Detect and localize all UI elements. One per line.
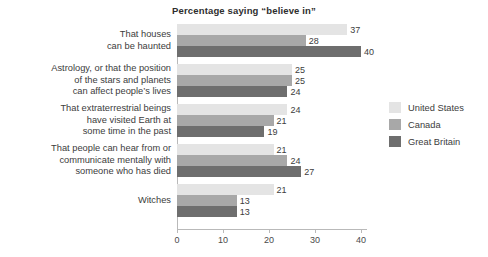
bar-value-label: 13 (240, 207, 250, 217)
bar[interactable] (177, 64, 292, 75)
bar-value-label: 24 (290, 105, 300, 115)
x-tick-label: 10 (218, 235, 228, 245)
bar-value-label: 24 (290, 87, 300, 97)
x-axis-line (177, 229, 367, 230)
bar[interactable] (177, 46, 361, 57)
legend-swatch-icon (389, 136, 401, 147)
bar-row: 37 (177, 24, 361, 35)
category-label: Witches (0, 195, 177, 206)
bar-value-label: 25 (295, 65, 305, 75)
bar-value-label: 13 (240, 196, 250, 206)
x-tick-mark (223, 229, 224, 233)
bar-row: 21 (177, 184, 361, 195)
category-label: That extraterrestrial beings have visite… (0, 103, 177, 137)
legend-item-canada[interactable]: Canada (389, 116, 464, 133)
bar[interactable] (177, 195, 237, 206)
x-tick-mark (361, 229, 362, 233)
bar[interactable] (177, 115, 274, 126)
bar[interactable] (177, 24, 347, 35)
legend-swatch-icon (389, 102, 401, 113)
bar[interactable] (177, 184, 274, 195)
bar-row: 19 (177, 126, 361, 137)
chart-title: Percentage saying “believe in” (0, 5, 488, 16)
bar[interactable] (177, 86, 287, 97)
bar-row: 27 (177, 166, 361, 177)
bar-row: 13 (177, 206, 361, 217)
x-tick-label: 30 (310, 235, 320, 245)
bar-row: 21 (177, 144, 361, 155)
bar-value-label: 27 (304, 167, 314, 177)
x-tick-mark (269, 229, 270, 233)
category-label: That people can hear from or communicate… (0, 143, 177, 177)
bar-group: That houses can be haunted372840 (177, 24, 361, 57)
bar-value-label: 19 (267, 127, 277, 137)
bar[interactable] (177, 104, 287, 115)
bar-row: 13 (177, 195, 361, 206)
bar-row: 25 (177, 64, 361, 75)
x-tick-mark (177, 229, 178, 233)
bar-group: That extraterrestrial beings have visite… (177, 104, 361, 137)
bar-group: Witches211313 (177, 184, 361, 217)
x-tick-label: 0 (174, 235, 179, 245)
x-tick-label: 20 (264, 235, 274, 245)
legend-label: Canada (408, 120, 441, 130)
bar-row: 24 (177, 86, 361, 97)
bar[interactable] (177, 35, 306, 46)
chart-figure: Percentage saying “believe in” 010203040… (0, 0, 488, 257)
bar-group: Astrology, or that the position of the s… (177, 64, 361, 97)
bar-row: 28 (177, 35, 361, 46)
legend-item-great-britain[interactable]: Great Britain (389, 133, 464, 150)
bar[interactable] (177, 75, 292, 86)
bar-value-label: 28 (309, 36, 319, 46)
legend-label: Great Britain (408, 137, 460, 147)
bar-row: 24 (177, 155, 361, 166)
bar-value-label: 21 (277, 185, 287, 195)
bar-row: 25 (177, 75, 361, 86)
plot-area: That houses can be haunted372840Astrolog… (177, 24, 361, 228)
bar-value-label: 37 (350, 25, 360, 35)
category-label: Astrology, or that the position of the s… (0, 63, 177, 97)
x-tick-mark (315, 229, 316, 233)
bar-row: 24 (177, 104, 361, 115)
bar-value-label: 21 (277, 116, 287, 126)
bar-value-label: 40 (364, 47, 374, 57)
legend-swatch-icon (389, 119, 401, 130)
bar[interactable] (177, 126, 264, 137)
legend-label: United States (408, 103, 464, 113)
bar-value-label: 25 (295, 76, 305, 86)
legend-item-united-states[interactable]: United States (389, 99, 464, 116)
bar[interactable] (177, 166, 301, 177)
bar[interactable] (177, 206, 237, 217)
bar-value-label: 24 (290, 156, 300, 166)
bar[interactable] (177, 144, 274, 155)
bar-row: 40 (177, 46, 361, 57)
bar[interactable] (177, 155, 287, 166)
x-tick-label: 40 (356, 235, 366, 245)
chart-legend: United StatesCanadaGreat Britain (389, 99, 464, 150)
bar-row: 21 (177, 115, 361, 126)
bar-value-label: 21 (277, 145, 287, 155)
category-label: That houses can be haunted (0, 29, 177, 52)
bar-group: That people can hear from or communicate… (177, 144, 361, 177)
